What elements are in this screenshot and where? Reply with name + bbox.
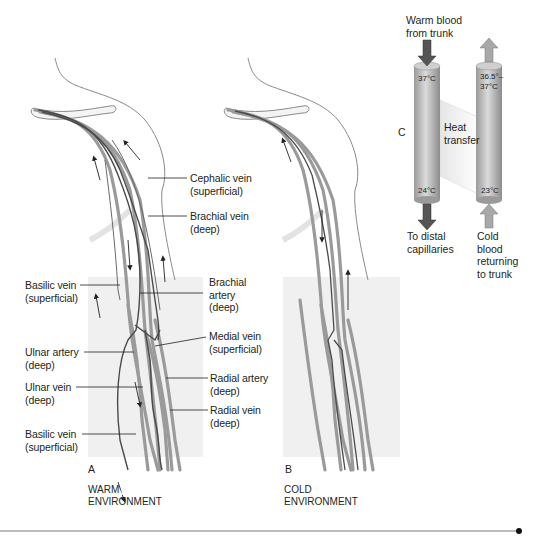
temp-artery-top: 37°C [418,74,436,84]
label-to-distal: To distal capillaries [407,230,454,255]
arrow-up-return-icon [480,38,498,62]
panel-b-environment: COLD ENVIRONMENT [284,484,358,508]
label-cephalic-vein: Cephalic vein (superficial) [190,172,252,197]
label-cold-blood: Cold blood returning to trunk [477,230,518,280]
temp-artery-bottom: 24°C [418,186,436,196]
label-brachial-vein: Brachial vein (deep) [190,210,249,235]
bottom-rule-dot [516,528,522,534]
label-medial-vein: Medial vein (superficial) [209,330,262,355]
arrow-down-warm-icon [418,40,436,66]
panel-a-environment: WARM ENVIRONMENT [88,484,162,508]
label-ulnar-artery: Ulnar artery (deep) [25,346,79,371]
panel-c-letter: C [398,126,406,138]
label-warm-blood: Warm blood from trunk [406,14,462,39]
arrow-down-distal-icon [418,204,436,230]
label-basilic-vein-lower: Basilic vein (superficial) [25,428,78,453]
label-radial-vein: Radial vein (deep) [210,404,261,429]
panel-b-letter: B [285,463,292,475]
arm-illustrations [0,0,542,542]
temp-vein-top: 36.5°– 37°C [480,72,503,92]
label-radial-artery: Radial artery (deep) [210,372,268,397]
label-ulnar-vein: Ulnar vein (deep) [25,381,71,406]
arm-b [224,58,400,495]
label-brachial-artery: Brachial artery (deep) [209,276,246,314]
temp-vein-bottom: 23°C [481,186,499,196]
panel-a-letter: A [88,463,95,475]
label-heat-transfer: Heat transfer [444,121,480,146]
arrow-up-cold-icon [480,204,498,228]
label-basilic-vein-upper: Basilic vein (superficial) [25,279,78,304]
